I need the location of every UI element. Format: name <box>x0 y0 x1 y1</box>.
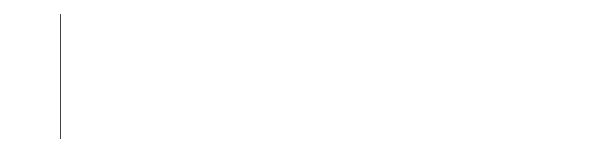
y-axis <box>60 14 61 139</box>
stacked-bar-plot <box>80 14 456 140</box>
